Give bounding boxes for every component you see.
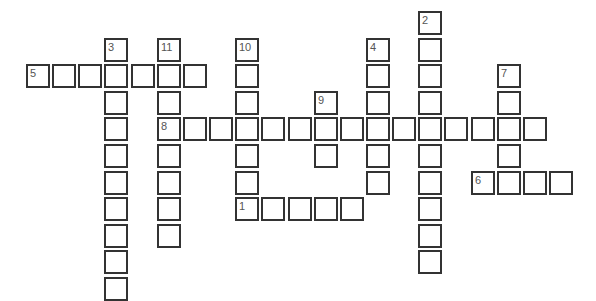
crossword-cell[interactable] [523,171,547,195]
crossword-cell[interactable] [366,117,390,141]
crossword-cell[interactable]: 11 [157,38,181,62]
crossword-cell[interactable] [549,171,573,195]
crossword-cell[interactable] [314,117,338,141]
clue-number: 5 [30,68,36,79]
crossword-cell[interactable]: 3 [104,38,128,62]
crossword-cell[interactable] [235,117,259,141]
clue-number: 9 [318,95,324,106]
clue-number: 2 [422,15,428,26]
clue-number: 8 [161,121,167,132]
crossword-cell[interactable] [497,171,521,195]
crossword-cell[interactable]: 5 [26,64,50,88]
crossword-cell[interactable] [104,91,128,115]
crossword-cell[interactable] [157,91,181,115]
crossword-cell[interactable] [235,91,259,115]
crossword-cell[interactable] [157,224,181,248]
crossword-cell[interactable] [183,64,207,88]
crossword-cell[interactable]: 2 [418,11,442,35]
crossword-cell[interactable] [157,64,181,88]
clue-number: 6 [475,175,481,186]
crossword-cell[interactable] [418,250,442,274]
crossword-cell[interactable] [366,91,390,115]
crossword-cell[interactable] [104,224,128,248]
crossword-cell[interactable] [418,197,442,221]
crossword-cell[interactable] [261,117,285,141]
crossword-cell[interactable] [104,171,128,195]
crossword-cell[interactable]: 1 [235,197,259,221]
clue-number: 1 [239,201,245,212]
crossword-cell[interactable] [471,117,495,141]
crossword-cell[interactable]: 8 [157,117,181,141]
crossword-cell[interactable] [418,38,442,62]
crossword-cell[interactable] [523,117,547,141]
crossword-cell[interactable] [418,91,442,115]
crossword-cell[interactable] [418,171,442,195]
crossword-cell[interactable] [235,171,259,195]
crossword-cell[interactable] [418,117,442,141]
crossword-cell[interactable]: 6 [471,171,495,195]
clue-number: 7 [501,68,507,79]
crossword-cell[interactable] [209,117,233,141]
crossword-cell[interactable] [288,117,312,141]
crossword-cell[interactable] [340,197,364,221]
crossword-cell[interactable] [52,64,76,88]
clue-number: 11 [161,42,172,53]
crossword-cell[interactable] [235,64,259,88]
crossword-cell[interactable] [104,250,128,274]
crossword-cell[interactable] [261,197,285,221]
crossword-cell[interactable] [366,171,390,195]
crossword-cell[interactable] [444,117,468,141]
crossword-cell[interactable]: 4 [366,38,390,62]
crossword-cell[interactable] [314,197,338,221]
crossword-cell[interactable] [314,144,338,168]
crossword-cell[interactable] [104,277,128,301]
crossword-cell[interactable] [340,117,364,141]
crossword-cell[interactable]: 10 [235,38,259,62]
crossword-cell[interactable] [418,144,442,168]
crossword-cell[interactable] [157,197,181,221]
crossword-cell[interactable] [157,144,181,168]
crossword-cell[interactable]: 7 [497,64,521,88]
crossword-cell[interactable] [104,197,128,221]
crossword-cell[interactable] [104,117,128,141]
crossword-cell[interactable] [497,117,521,141]
crossword-cell[interactable] [183,117,207,141]
crossword-cell[interactable] [104,64,128,88]
clue-number: 3 [108,42,114,53]
crossword-cell[interactable] [366,144,390,168]
crossword-cell[interactable] [131,64,155,88]
clue-number: 10 [239,42,251,53]
crossword-cell[interactable] [78,64,102,88]
crossword-cell[interactable] [497,144,521,168]
crossword-cell[interactable] [497,91,521,115]
crossword-cell[interactable] [366,64,390,88]
crossword-cell[interactable] [418,64,442,88]
crossword-cell[interactable] [235,144,259,168]
crossword-cell[interactable]: 9 [314,91,338,115]
clue-number: 4 [370,42,376,53]
crossword-cell[interactable] [392,117,416,141]
crossword-cell[interactable] [157,171,181,195]
crossword-cell[interactable] [418,224,442,248]
crossword-cell[interactable] [288,197,312,221]
crossword-cell[interactable] [104,144,128,168]
